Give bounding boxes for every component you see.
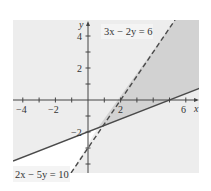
- y-tick-label-neg2: −2: [71, 127, 82, 138]
- x-axis-label: x: [193, 103, 199, 114]
- eq-dashed-label: 3x − 2y = 6: [104, 26, 153, 37]
- x-tick-label-neg2: −2: [48, 104, 59, 115]
- y-tick-label-2: 2: [77, 63, 82, 74]
- eq-solid-label: 2x − 5y = 10: [15, 169, 69, 180]
- plot-area: [13, 20, 200, 173]
- y-tick-label-4: 4: [77, 31, 82, 42]
- inequality-graph: −4 −2 2 6 4 2 −2 y x 3x − 2y = 6 2x − 5y…: [0, 0, 211, 191]
- y-axis-label: y: [78, 19, 84, 30]
- x-tick-label-neg4: −4: [16, 104, 27, 115]
- x-tick-label-6: 6: [181, 104, 186, 115]
- x-tick-label-2: 2: [118, 104, 123, 115]
